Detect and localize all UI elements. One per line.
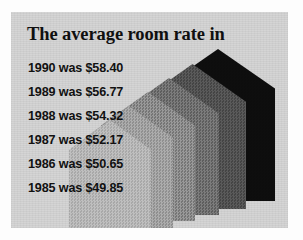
row-amount: $50.65 — [85, 157, 123, 171]
data-row: 1985 was $49.85 — [28, 176, 123, 200]
figure-panel: The average room rate in 1990 was $58.40… — [11, 12, 288, 228]
row-year: 1986 — [28, 157, 55, 171]
row-verb: was — [55, 181, 85, 195]
row-verb: was — [55, 61, 85, 75]
data-row: 1990 was $58.40 — [28, 56, 123, 80]
row-year: 1987 — [28, 133, 55, 147]
data-label-list: 1990 was $58.401989 was $56.771988 was $… — [28, 56, 123, 200]
row-amount: $58.40 — [85, 61, 123, 75]
row-amount: $52.17 — [85, 133, 123, 147]
page-title: The average room rate in — [27, 24, 225, 45]
row-year: 1989 — [28, 85, 55, 99]
row-verb: was — [55, 85, 85, 99]
row-amount: $56.77 — [85, 85, 123, 99]
row-year: 1985 — [28, 181, 55, 195]
data-row: 1988 was $54.32 — [28, 104, 123, 128]
row-amount: $54.32 — [85, 109, 123, 123]
row-year: 1990 — [28, 61, 55, 75]
data-row: 1986 was $50.65 — [28, 152, 123, 176]
data-row: 1987 was $52.17 — [28, 128, 123, 152]
row-verb: was — [55, 157, 85, 171]
scanned-page: The average room rate in 1990 was $58.40… — [0, 0, 303, 240]
row-verb: was — [55, 109, 85, 123]
row-verb: was — [55, 133, 85, 147]
row-year: 1988 — [28, 109, 55, 123]
row-amount: $49.85 — [85, 181, 123, 195]
data-row: 1989 was $56.77 — [28, 80, 123, 104]
